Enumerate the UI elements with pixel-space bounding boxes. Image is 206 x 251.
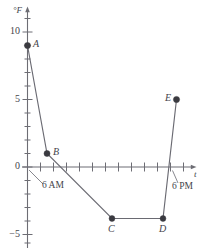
x-axis (22, 163, 197, 172)
six-am-leader-line (29, 170, 43, 184)
data-point-d[interactable] (160, 216, 166, 222)
six-am-annotation: 6 AM (42, 181, 64, 191)
x-axis-title: t (194, 170, 197, 179)
point-label-d: D (159, 224, 166, 234)
data-point-a[interactable] (24, 42, 30, 48)
point-label-c: C (108, 224, 115, 234)
y-axis-label-neg5: −5 (0, 229, 20, 239)
point-label-e: E (165, 93, 171, 103)
y-axis-label-5: 5 (3, 94, 20, 104)
point-label-b: B (53, 147, 59, 157)
point-label-a: A (33, 39, 39, 49)
temperature-time-chart: °F t 10 5 0 −5 A B C D E 6 AM 6 PM (0, 0, 206, 251)
data-point-c[interactable] (109, 216, 115, 222)
data-point-b[interactable] (44, 151, 50, 157)
chart-canvas (0, 0, 206, 251)
y-axis-title: °F (13, 6, 22, 15)
six-pm-annotation: 6 PM (172, 182, 193, 192)
temperature-series-line (28, 46, 177, 219)
data-point-e[interactable] (173, 96, 179, 102)
y-axis-label-0: 0 (3, 161, 20, 171)
y-axis-arrowhead (25, 7, 30, 13)
y-axis-label-10: 10 (3, 26, 20, 36)
